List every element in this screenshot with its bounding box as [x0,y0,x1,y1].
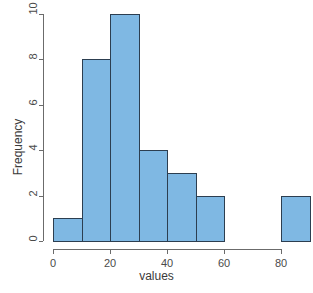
x-axis-tick-label: 0 [50,258,56,269]
x-axis-title-label: values [139,269,174,283]
histogram-bar [281,196,311,242]
y-axis-tick [39,196,43,197]
x-axis-tick [224,249,225,254]
histogram-bar [139,150,168,242]
x-axis-tick-label: 20 [104,258,116,269]
histogram-bar [167,173,197,242]
x-axis-tick [110,249,111,254]
y-axis-tick [39,241,43,242]
x-axis-tick-label: 60 [218,258,230,269]
x-axis-tick [53,249,54,254]
histogram-bar [110,14,140,242]
y-axis-tick [39,150,43,151]
y-axis-tick [39,59,43,60]
x-axis-title: values [0,269,313,283]
x-axis-tick-label: 80 [275,258,287,269]
histogram-bar [82,59,111,242]
plot-area: 0246810020406080 [0,0,313,293]
histogram-bar [53,218,83,242]
y-axis-line [43,14,44,241]
x-axis-tick-label: 40 [161,258,173,269]
x-axis-tick [167,249,168,254]
y-axis-tick [39,14,43,15]
histogram-plot: 0246810020406080 Frequency values [0,0,313,293]
x-axis-tick [281,249,282,254]
y-axis-tick [39,105,43,106]
histogram-bar [196,196,225,242]
